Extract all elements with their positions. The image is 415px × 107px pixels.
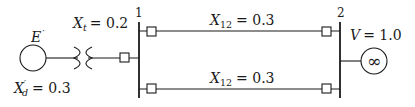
bus-2-label: 2 — [337, 6, 345, 20]
generator-reactance-label: X′d= 0.3 — [13, 79, 71, 98]
transformer-reactance-label: Xt= 0.2 — [72, 15, 128, 33]
bus-1-label: 1 — [135, 6, 143, 20]
infinite-bus-voltage-label: V= 1.0 — [350, 27, 402, 43]
bus-1: 1 — [135, 6, 143, 98]
power-system-diagram: E′ X′d= 0.3 Xt= 0.2 1 2 X12= 0.3 X12= 0.… — [0, 0, 415, 107]
breaker-icon — [147, 84, 156, 93]
infinite-bus: ∞ V= 1.0 — [340, 27, 402, 74]
breaker-icon — [322, 84, 331, 93]
generator: E′ X′d= 0.3 — [13, 28, 71, 98]
transmission-line-2: X12= 0.3 — [139, 70, 340, 93]
bus-2: 2 — [337, 6, 345, 98]
generator-icon — [20, 45, 46, 71]
breaker-icon — [147, 27, 156, 36]
generator-emf-label: E′ — [30, 28, 45, 45]
transmission-line-1: X12= 0.3 — [139, 12, 340, 36]
breaker-icon — [322, 27, 331, 36]
breaker-icon — [120, 53, 129, 62]
line-1-reactance-label: X12= 0.3 — [209, 12, 275, 30]
line-2-reactance-label: X12= 0.3 — [209, 70, 275, 88]
infinity-glyph: ∞ — [367, 51, 381, 71]
